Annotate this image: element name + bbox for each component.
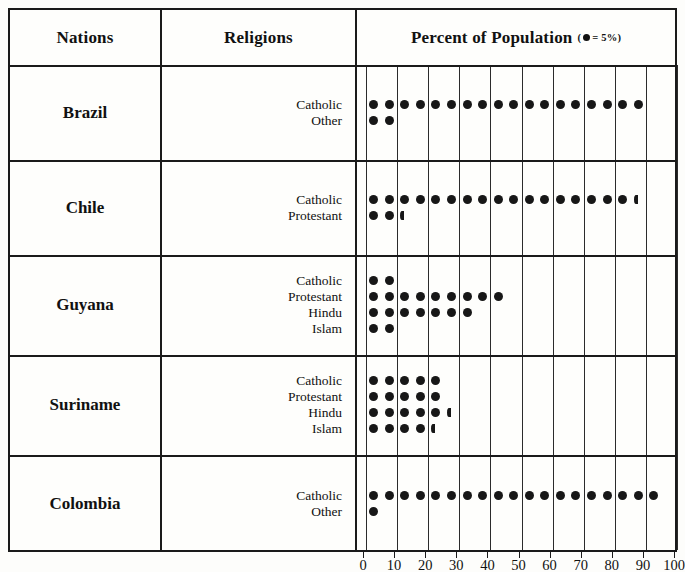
table-header-row: Nations Religions Percent of Population … [10,10,675,65]
pictograph-dots-area [357,355,675,455]
religion-label: Catholic [296,373,342,389]
pictograph-dot [587,195,596,204]
pictograph-dot [416,100,425,109]
pictograph-dot [400,392,409,401]
axis-label: 0 [359,557,366,572]
pictograph-dot [431,308,440,317]
pictograph-dot [416,424,425,433]
pictograph-dot [416,392,425,401]
religion-label: Other [311,113,342,129]
pictograph-dot [385,491,394,500]
pictograph-dot [431,100,440,109]
axis-label: 40 [480,557,495,572]
pictograph-dot [447,292,456,301]
pictograph-dot [369,408,378,417]
pictograph-dot [540,491,549,500]
pictograph-dot [369,195,378,204]
religion-label: Other [311,504,342,520]
nation-name: Brazil [10,65,160,160]
axis-label: 100 [663,557,685,572]
religion-label-list: CatholicProtestantHinduIslam [162,355,348,455]
header-nations: Nations [10,10,160,65]
religion-label: Protestant [288,289,342,305]
pictograph-dot [400,491,409,500]
dot-row [357,389,675,405]
dot-row [357,273,675,289]
pictograph-dot [634,491,643,500]
pictograph-dot [385,408,394,417]
pictograph-dot [525,100,534,109]
axis-label: 20 [418,557,433,572]
pictograph-dot [416,491,425,500]
pictograph-dot [400,292,409,301]
pictograph-half-dot [447,408,451,417]
dot-row [357,289,675,305]
axis-label: 70 [573,557,588,572]
dot-row [357,305,675,321]
pictograph-dot [369,308,378,317]
pictograph-dot [400,376,409,385]
table-row: BrazilCatholicOther [10,65,675,160]
pictograph-dots-area [357,160,675,255]
pictograph-dot [385,424,394,433]
religion-label: Hindu [308,305,342,321]
axis-label: 30 [449,557,464,572]
religion-pictograph-table: Nations Religions Percent of Population … [8,8,677,552]
pictograph-dot [556,491,565,500]
pictograph-dot [618,195,627,204]
dot-row [357,113,675,129]
pictograph-dot [587,100,596,109]
pictograph-dot [509,195,518,204]
axis-label: 90 [636,557,651,572]
axis-label: 60 [542,557,557,572]
pictograph-dot [463,308,472,317]
axis-label: 10 [387,557,402,572]
pictograph-dot [556,195,565,204]
pictograph-dot [400,195,409,204]
pictograph-dot [400,424,409,433]
dot-row [357,373,675,389]
religion-label: Catholic [296,97,342,113]
dot-row [357,97,675,113]
pictograph-page: Nations Religions Percent of Population … [0,0,685,572]
religion-label: Catholic [296,192,342,208]
religion-label: Islam [312,321,342,337]
pictograph-dot [540,195,549,204]
legend-paren-open: ( [578,32,582,43]
nation-name: Chile [10,160,160,255]
pictograph-dot [369,211,378,220]
header-percent-label: Percent of Population [411,28,573,48]
pictograph-dot [634,100,643,109]
pictograph-dot [369,507,378,516]
pictograph-dot [463,491,472,500]
dot-row [357,504,675,520]
pictograph-dot [587,491,596,500]
pictograph-dot [525,491,534,500]
pictograph-dot [431,195,440,204]
pictograph-dot [385,324,394,333]
pictograph-dot [509,100,518,109]
pictograph-half-dot [431,424,435,433]
pictograph-dot [416,308,425,317]
pictograph-dot [431,376,440,385]
pictograph-dot [618,491,627,500]
dot-row [357,321,675,337]
religion-label: Catholic [296,273,342,289]
dot-row [357,488,675,504]
pictograph-dot [369,292,378,301]
nation-name: Suriname [10,355,160,455]
dot-row [357,208,675,224]
pictograph-dot [431,408,440,417]
pictograph-dot [525,195,534,204]
pictograph-dot [385,292,394,301]
pictograph-dot [494,292,503,301]
pictograph-dot [463,100,472,109]
pictograph-dot [571,491,580,500]
pictograph-dot [447,308,456,317]
pictograph-dot [447,100,456,109]
pictograph-dot [400,100,409,109]
pictograph-dot [478,491,487,500]
dot-row [357,421,675,437]
pictograph-dot [571,100,580,109]
religion-label: Protestant [288,208,342,224]
